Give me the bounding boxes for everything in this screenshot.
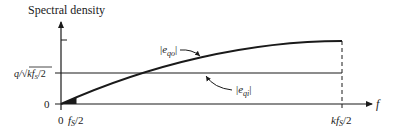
- eqi-pointer-arrow: [206, 76, 232, 90]
- y-axis-label: Spectral density: [28, 3, 105, 17]
- x-tick-label-zero: 0: [58, 114, 64, 126]
- spectral-density-diagram: Spectral density |eqo| |eqi| q/√kfS/2 0 …: [0, 0, 397, 136]
- y-tick-label-level: q/√kfS/2: [14, 68, 46, 81]
- eqo-label: |eqo|: [160, 43, 177, 58]
- x-axis-label: f: [376, 97, 381, 111]
- x-tick-label-kfs-half: kfS/2: [331, 114, 352, 128]
- y-tick-label-zero: 0: [44, 98, 50, 110]
- x-tick-label-fs-half: fS/2: [68, 114, 84, 128]
- eqi-label: |eqi|: [236, 83, 252, 98]
- eqo-pointer-arrow: [180, 50, 200, 56]
